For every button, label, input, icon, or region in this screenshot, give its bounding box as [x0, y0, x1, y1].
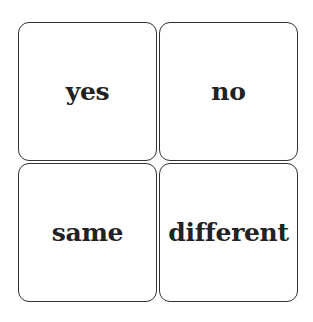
card-label: yes [66, 77, 110, 106]
card-same[interactable]: same [18, 163, 157, 302]
card-label: no [211, 77, 245, 106]
card-grid: yes no same different [18, 22, 298, 302]
card-yes[interactable]: yes [18, 22, 157, 161]
card-label: different [168, 218, 289, 247]
card-no[interactable]: no [159, 22, 298, 161]
card-label: same [52, 218, 123, 247]
card-different[interactable]: different [159, 163, 298, 302]
